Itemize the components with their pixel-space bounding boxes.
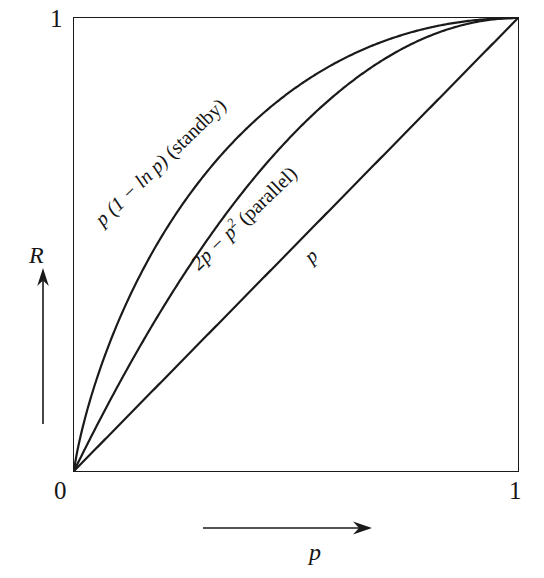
x-axis-tick-max: 1 [509, 478, 522, 503]
arrow-right-icon [200, 518, 375, 538]
x-axis-title: p [309, 540, 321, 564]
curve-simple [74, 18, 518, 471]
arrow-up-icon [34, 266, 52, 424]
curves-group [74, 18, 518, 471]
figure-canvas: 1 0 1 R p p (1 − ln p) (standby) 2p − p2… [0, 0, 544, 578]
y-axis-title: R [29, 243, 44, 267]
y-axis-tick-max: 1 [50, 6, 63, 31]
plot-frame [73, 17, 519, 472]
axis-origin-tick: 0 [54, 478, 67, 503]
